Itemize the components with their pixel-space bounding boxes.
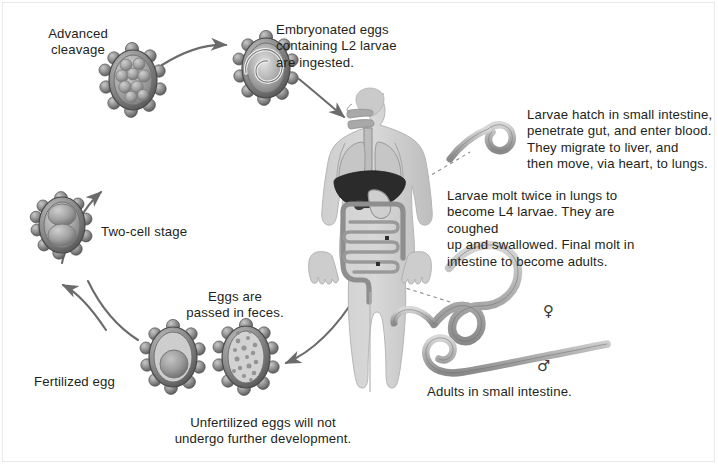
ovum — [160, 350, 188, 378]
blastomere-upper — [48, 204, 76, 226]
egg-unfertilized — [213, 318, 279, 395]
egg-fertilized — [140, 319, 205, 394]
label-eggs-passed-in-feces: Eggs are passed in feces. — [170, 289, 300, 322]
life-cycle-figure: Advanced cleavage Embryonated eggs conta… — [0, 0, 718, 465]
arrow-unfertilized-to-fertilized — [63, 285, 106, 330]
blastomere-lower — [48, 224, 76, 246]
label-unfertilized-eggs: Unfertilized eggs will not undergo furth… — [148, 415, 378, 448]
female-symbol-icon: ♀ — [543, 304, 554, 319]
arrow-cleavage-to-embryonated — [162, 45, 226, 65]
label-larvae-hatch: Larvae hatch in small intestine, penetra… — [527, 107, 717, 173]
label-two-cell-stage: Two-cell stage — [101, 224, 211, 240]
larva-illustration — [450, 125, 512, 159]
label-adults-in-small-intestine: Adults in small intestine. — [427, 384, 617, 400]
hand-left — [309, 252, 339, 284]
label-embryonated-eggs: Embryonated eggs containing L2 larvae ar… — [276, 22, 446, 71]
cycle-arrow-bottom-left — [88, 281, 138, 340]
label-advanced-cleavage: Advanced cleavage — [26, 26, 130, 59]
arrow-embryonated-to-mouth — [299, 79, 344, 117]
egg-two-cell-stage — [30, 192, 92, 260]
label-larvae-molt: Larvae molt twice in lungs to become L4 … — [447, 188, 667, 270]
human-host-illustration — [309, 88, 433, 392]
adult-male-worm — [426, 338, 607, 373]
male-symbol-icon: ♂ — [537, 359, 550, 374]
label-fertilized-egg: Fertilized egg — [34, 374, 144, 390]
